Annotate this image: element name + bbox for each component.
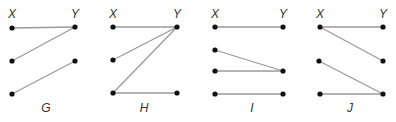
column-label-x: X	[210, 7, 220, 21]
column-label-x: X	[108, 7, 118, 21]
mapping-edge	[113, 27, 177, 93]
node-dot	[280, 68, 285, 73]
diagram-g: XYG	[7, 7, 80, 115]
node-dot	[280, 91, 285, 96]
node-dot	[212, 91, 217, 96]
node-dot	[380, 91, 385, 96]
node-dot	[317, 24, 322, 29]
node-dot	[110, 90, 115, 95]
column-label-x: X	[7, 7, 17, 21]
column-label-y: Y	[71, 7, 80, 21]
mapping-edge	[12, 27, 75, 61]
node-dot	[9, 91, 14, 96]
diagram-label: H	[140, 101, 149, 115]
mapping-edge	[215, 50, 283, 71]
node-dot	[380, 58, 385, 63]
node-dot	[110, 24, 115, 29]
node-dot	[380, 24, 385, 29]
column-label-y: Y	[279, 7, 288, 21]
mapping-edge	[12, 27, 75, 28]
mapping-edge	[12, 61, 75, 94]
node-dot	[174, 24, 179, 29]
node-dot	[174, 90, 179, 95]
diagram-label: I	[250, 101, 254, 115]
mapping-edge	[320, 27, 383, 61]
diagram-j: XYJ	[315, 7, 388, 115]
mapping-edge	[113, 27, 177, 60]
column-label-y: Y	[379, 7, 388, 21]
diagram-h: XYH	[108, 7, 182, 115]
node-dot	[316, 58, 321, 63]
column-label-x: X	[315, 7, 325, 21]
diagram-label: J	[346, 101, 354, 115]
node-dot	[9, 58, 14, 63]
mapping-diagrams: XYGXYHXYIXYJ	[0, 0, 396, 122]
diagram-label: G	[41, 101, 50, 115]
node-dot	[212, 68, 217, 73]
column-label-y: Y	[173, 7, 182, 21]
node-dot	[212, 24, 217, 29]
mapping-edge	[319, 61, 383, 94]
diagram-i: XYI	[210, 7, 288, 115]
node-dot	[317, 91, 322, 96]
node-dot	[9, 25, 14, 30]
node-dot	[110, 57, 115, 62]
node-dot	[72, 24, 77, 29]
node-dot	[280, 24, 285, 29]
node-dot	[212, 47, 217, 52]
node-dot	[72, 58, 77, 63]
